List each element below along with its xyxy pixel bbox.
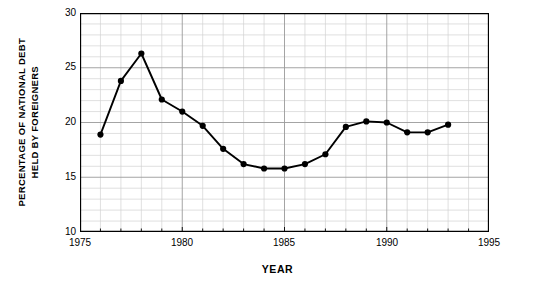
data-series-line: [100, 54, 448, 169]
x-tick-label-1975: 1975: [60, 238, 100, 248]
line-chart-figure: PERCENTAGE OF NATIONAL DEBT HELD BY FORE…: [0, 0, 555, 288]
y-tick-label-15: 15: [54, 172, 76, 182]
x-tick-label-1980: 1980: [162, 238, 202, 248]
x-axis-title: YEAR: [0, 263, 555, 275]
data-point-markers: [97, 50, 451, 171]
y-tick-label-30: 30: [54, 8, 76, 18]
x-axis-tick-labels: 1975 1980 1985 1990 1995: [0, 238, 555, 254]
y-axis-title-line-1: PERCENTAGE OF NATIONAL DEBT: [17, 38, 27, 207]
plot-svg: [80, 13, 489, 232]
x-tick-label-1990: 1990: [367, 238, 407, 248]
y-axis-tick-labels: 30 25 20 15 10: [50, 0, 76, 245]
x-tick-label-1995: 1995: [469, 238, 509, 248]
y-axis-title: PERCENTAGE OF NATIONAL DEBT HELD BY FORE…: [0, 0, 56, 245]
y-tick-label-20: 20: [54, 117, 76, 127]
y-tick-label-10: 10: [54, 227, 76, 237]
x-tick-label-1985: 1985: [264, 238, 304, 248]
plot-area: [80, 13, 489, 232]
y-axis-title-line-2: HELD BY FOREIGNERS: [30, 66, 40, 178]
y-tick-label-25: 25: [54, 62, 76, 72]
